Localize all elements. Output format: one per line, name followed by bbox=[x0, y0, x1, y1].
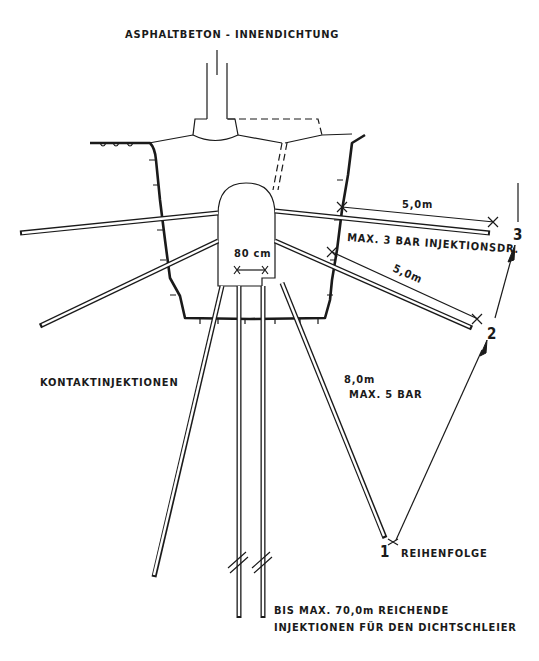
middle-dimension-label: 5,0m bbox=[391, 262, 425, 287]
curtain-label-line1: BIS MAX. 70,0m REICHENDE bbox=[274, 604, 449, 617]
contact-injection-pipes-left bbox=[20, 213, 218, 326]
sequence-step-3: 3 bbox=[513, 226, 523, 244]
plinth-block bbox=[149, 119, 352, 190]
asphalt-core-wall bbox=[207, 50, 227, 119]
gallery-width-label: 80 cm bbox=[234, 247, 271, 260]
middle-dimension: 5,0m bbox=[327, 247, 482, 324]
contact-injections-label: KONTAKTINJEKTIONEN bbox=[40, 376, 179, 389]
contact-injection-pipes-right bbox=[275, 211, 490, 328]
sequence-label: REIHENFOLGE bbox=[401, 547, 488, 560]
curtain-label-line2: INJEKTIONEN FÜR DEN DICHTSCHLEIER bbox=[274, 620, 517, 634]
sequence-step-1: 1 bbox=[380, 543, 390, 561]
sequence-step-2: 2 bbox=[487, 325, 497, 343]
upper-pressure-label: MAX. 3 BAR INJEKTIONSDR. bbox=[347, 231, 520, 256]
excavation-outline bbox=[90, 135, 365, 324]
lower-pressure-label: MAX. 5 BAR bbox=[349, 388, 423, 401]
diagram-title: ASPHALTBETON - INNENDICHTUNG bbox=[125, 28, 339, 41]
gallery-width-dimension: 80 cm bbox=[234, 247, 271, 274]
lower-dimension-label: 8,0m bbox=[344, 373, 375, 386]
grout-curtain-pipes bbox=[154, 283, 385, 618]
grouting-cross-section-diagram: ASPHALTBETON - INNENDICHTUNG bbox=[0, 0, 539, 661]
upper-dimension-label: 5,0m bbox=[402, 198, 433, 211]
